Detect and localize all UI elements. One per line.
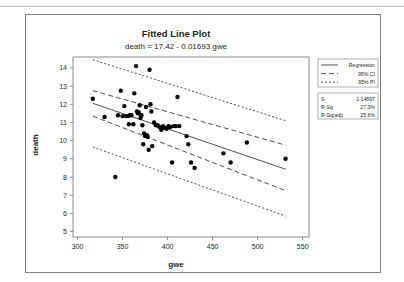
- scatter-point: [245, 140, 249, 144]
- x-axis-label: gwe: [168, 260, 184, 269]
- plot-frame: [73, 57, 309, 237]
- stat-label: S: [321, 96, 325, 102]
- scatter-point: [192, 166, 196, 170]
- scatter-point: [132, 91, 136, 95]
- scatter-point: [116, 113, 120, 117]
- x-tick-label: 550: [297, 243, 309, 250]
- y-tick-label: 9: [63, 155, 67, 162]
- scatter-point: [184, 134, 188, 138]
- legend-label[interactable]: Regression: [349, 62, 375, 68]
- y-tick-label: 8: [63, 174, 67, 181]
- axes-group: 567891011121314300350400450500550: [59, 57, 309, 250]
- chart-subtitle: death = 17.42 - 0.01693 gwe: [125, 42, 228, 51]
- scatter-point: [134, 64, 138, 68]
- scatter-point: [228, 160, 232, 164]
- regression-fit-line: [93, 103, 286, 169]
- stat-value: 25.6%: [360, 112, 375, 118]
- scatter-point: [150, 144, 154, 148]
- chart-canvas: Fitted Line Plot death = 17.42 - 0.01693…: [26, 15, 380, 272]
- scatter-point: [127, 122, 131, 126]
- y-tick-label: 6: [63, 210, 67, 217]
- scatter-point: [140, 123, 144, 127]
- scatter-point: [146, 148, 150, 152]
- legend-label[interactable]: 95% PI: [358, 79, 375, 85]
- scatter-point: [147, 68, 151, 72]
- x-tick-label: 300: [72, 243, 84, 250]
- x-tick-label: 450: [207, 243, 219, 250]
- scatter-point: [119, 88, 123, 92]
- x-tick-label: 500: [252, 243, 264, 250]
- top-divider: [0, 6, 404, 7]
- legend-box[interactable]: Regression95% CI95% PI: [318, 59, 378, 87]
- chart-title: Fitted Line Plot: [142, 28, 211, 39]
- scatter-point: [137, 103, 141, 107]
- fitted-line-plot-svg: Fitted Line Plot death = 17.42 - 0.01693…: [26, 15, 380, 272]
- y-tick-label: 10: [59, 137, 67, 144]
- y-tick-label: 14: [59, 64, 67, 71]
- y-tick-label: 7: [63, 192, 67, 199]
- scatter-point: [144, 105, 148, 109]
- scatter-point: [175, 95, 179, 99]
- scatter-point: [102, 115, 106, 119]
- y-tick-label: 13: [59, 83, 67, 90]
- scatter-point: [221, 151, 225, 155]
- scatter-point: [149, 109, 153, 113]
- scatter-points-group: [91, 64, 288, 179]
- regression-line: [93, 103, 286, 169]
- ci-lower-band: [93, 116, 286, 191]
- scatter-point: [141, 142, 145, 146]
- y-axis-label: death: [31, 134, 40, 155]
- scatter-point: [186, 142, 190, 146]
- stat-label: R-Sq(adj): [321, 112, 343, 118]
- y-tick-label: 11: [60, 119, 67, 126]
- scatter-point: [91, 97, 95, 101]
- x-tick-label: 350: [117, 243, 129, 250]
- scatter-point: [177, 124, 181, 128]
- screenshot-root: Fitted Line Plot death = 17.42 - 0.01693…: [0, 0, 404, 282]
- stat-label: R-Sq: [321, 104, 333, 110]
- scatter-point: [139, 113, 143, 117]
- scatter-point: [148, 102, 152, 106]
- stat-value: 1.14897: [356, 96, 375, 102]
- scatter-point: [283, 157, 287, 161]
- scatter-point: [189, 160, 193, 164]
- interval-bands-group: [93, 60, 286, 216]
- scatter-point: [129, 113, 133, 117]
- pi-lower-band: [93, 147, 286, 216]
- scatter-point: [113, 175, 117, 179]
- y-tick-label: 5: [63, 228, 67, 235]
- x-tick-label: 400: [162, 243, 174, 250]
- scatter-point: [131, 122, 135, 126]
- scatter-point: [170, 160, 174, 164]
- scatter-point: [122, 104, 126, 108]
- y-tick-label: 12: [59, 101, 67, 108]
- legend-label[interactable]: 95% CI: [358, 71, 375, 77]
- statistics-box: S1.14897R-Sq27.3%R-Sq(adj)25.6%: [318, 93, 378, 119]
- fitted-line-plot-panel: Fitted Line Plot death = 17.42 - 0.01693…: [25, 14, 381, 273]
- stat-value: 27.3%: [360, 104, 375, 110]
- scatter-point: [146, 135, 150, 139]
